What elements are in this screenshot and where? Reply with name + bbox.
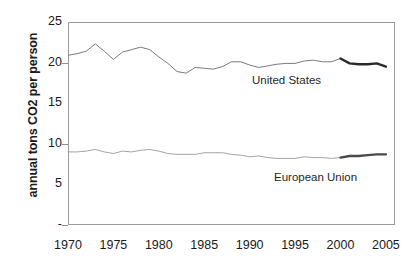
series-line-emphasis-united-states <box>341 59 386 67</box>
y-axis-tick-labels: -510152025 <box>24 0 62 271</box>
series-line-emphasis-european-union <box>341 154 386 157</box>
y-tick-label: 20 <box>26 56 62 69</box>
y-tick-label: 15 <box>26 96 62 109</box>
x-tick-label: 1995 <box>272 238 318 252</box>
x-tick-label: 1990 <box>227 238 273 252</box>
chart-screenshot: annual tons CO2 per person -510152025 19… <box>0 0 417 271</box>
y-tick-mark <box>62 225 68 226</box>
series-line-united-states <box>68 44 341 73</box>
series-label-european-union: European Union <box>274 171 357 183</box>
y-tick-label: 10 <box>26 137 62 150</box>
y-tick-label: 25 <box>26 15 62 28</box>
y-tick-label: 5 <box>26 177 62 190</box>
x-tick-label: 1970 <box>45 238 91 252</box>
x-tick-label: 2000 <box>318 238 364 252</box>
series-line-european-union <box>68 149 341 158</box>
series-label-united-states: United States <box>252 74 321 86</box>
x-tick-label: 1985 <box>181 238 227 252</box>
y-tick-label: - <box>26 218 62 231</box>
chart-plot-lines <box>68 22 395 225</box>
x-tick-label: 1975 <box>90 238 136 252</box>
x-tick-label: 2005 <box>363 238 409 252</box>
x-tick-label: 1980 <box>136 238 182 252</box>
